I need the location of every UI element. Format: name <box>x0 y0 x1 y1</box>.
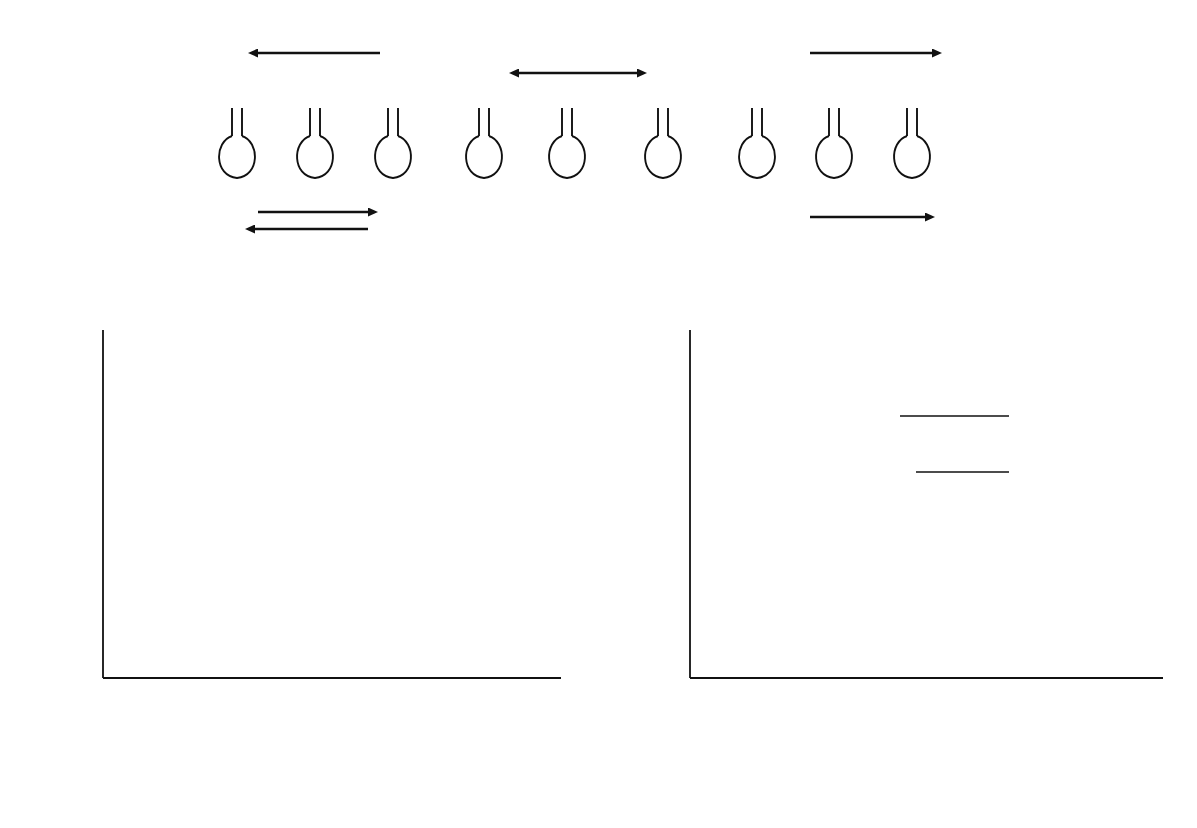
antenna-element <box>645 108 681 178</box>
panel-b <box>103 330 561 678</box>
antenna-element <box>375 108 411 178</box>
antenna-element <box>894 108 930 178</box>
antenna-element <box>549 108 585 178</box>
panel-a <box>219 53 932 229</box>
antenna-element <box>466 108 502 178</box>
antenna-element <box>739 108 775 178</box>
figure-svg <box>0 0 1197 828</box>
antenna-elements-group <box>219 108 930 178</box>
panel-c <box>690 330 1163 678</box>
antenna-element <box>219 108 255 178</box>
antenna-element <box>816 108 852 178</box>
antenna-element <box>297 108 333 178</box>
figure-container <box>0 0 1197 828</box>
